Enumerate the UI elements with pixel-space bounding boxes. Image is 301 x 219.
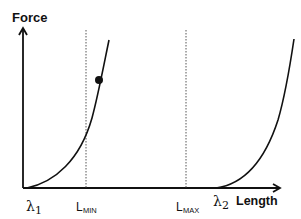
svg-text:2: 2 xyxy=(222,199,229,212)
svg-text:MAX: MAX xyxy=(183,206,199,215)
svg-text:L: L xyxy=(176,200,183,214)
y-axis xyxy=(19,28,27,188)
right-force-curve xyxy=(216,39,294,188)
force-length-diagram: Force Length λ 1 L MIN L MAX λ 2 xyxy=(0,0,301,219)
svg-text:λ: λ xyxy=(26,198,35,214)
tick-lambda1: λ 1 xyxy=(26,198,42,217)
tick-lambda2: λ 2 xyxy=(213,193,229,212)
operating-point-dot xyxy=(95,76,103,84)
x-axis-label: Length xyxy=(236,194,278,208)
y-axis-label: Force xyxy=(12,10,47,25)
left-force-curve xyxy=(27,40,109,188)
svg-text:L: L xyxy=(76,200,83,214)
x-axis xyxy=(23,184,280,192)
tick-lmax: L MAX xyxy=(176,200,199,215)
svg-text:λ: λ xyxy=(213,193,222,209)
svg-text:1: 1 xyxy=(35,204,42,217)
tick-lmin: L MIN xyxy=(76,200,97,215)
svg-text:MIN: MIN xyxy=(83,206,97,215)
